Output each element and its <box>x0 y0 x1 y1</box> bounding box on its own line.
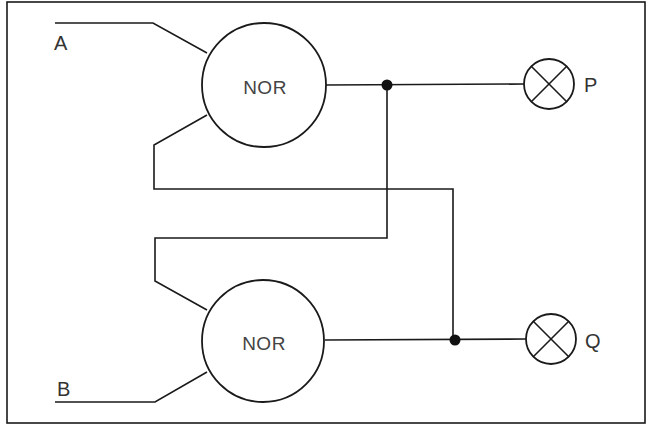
gate-label-bottom: NOR <box>242 334 286 353</box>
junction-dot-p <box>382 80 393 91</box>
output-label-q: Q <box>585 331 601 351</box>
lamp-icon-p <box>524 59 574 109</box>
input-a-wire <box>55 23 207 53</box>
input-label-a: A <box>54 33 67 53</box>
lamp-icon-q <box>526 314 576 364</box>
output-q-wire <box>325 339 526 340</box>
circuit-diagram <box>0 0 649 429</box>
input-b-wire <box>55 372 207 402</box>
junction-dot-q <box>450 335 461 346</box>
output-p-wire <box>326 84 524 85</box>
output-label-p: P <box>584 75 597 95</box>
gate-label-top: NOR <box>243 78 287 97</box>
input-label-b: B <box>57 379 70 399</box>
